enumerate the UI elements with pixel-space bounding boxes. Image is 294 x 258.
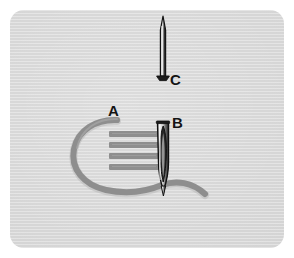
needle-c <box>157 16 170 81</box>
callout-label-a: A <box>108 103 119 118</box>
needle-b-head <box>156 121 169 124</box>
needle-b-highlight <box>159 124 160 180</box>
callout-label-c: C <box>170 72 181 87</box>
needle-c-shadow <box>164 28 165 75</box>
needle-c-head <box>157 76 170 81</box>
diagram-artwork <box>0 0 294 258</box>
stitch-bars-group <box>109 131 161 170</box>
needle-b-point <box>161 186 165 196</box>
callout-label-b: B <box>172 115 183 130</box>
figure-canvas: A B C <box>0 0 294 258</box>
needle-c-highlight <box>161 26 162 75</box>
stitch-bar-texture <box>112 133 156 167</box>
artwork-svg <box>0 0 294 258</box>
